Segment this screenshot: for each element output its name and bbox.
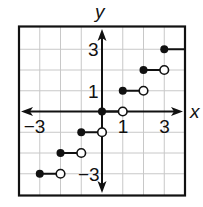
- open-point-icon: [118, 107, 127, 116]
- open-point-icon: [139, 86, 148, 95]
- open-point-icon: [98, 128, 107, 137]
- closed-point-icon: [140, 66, 148, 74]
- closed-point-icon: [98, 108, 106, 116]
- x-tick-label: 1: [118, 116, 129, 137]
- y-axis-label: y: [93, 1, 106, 22]
- closed-point-icon: [160, 45, 168, 53]
- open-point-icon: [160, 66, 169, 75]
- x-axis-label: x: [189, 101, 201, 122]
- step-function-graph: −31331−3 x y: [0, 0, 203, 207]
- open-point-icon: [77, 149, 86, 158]
- closed-point-icon: [77, 128, 85, 136]
- y-tick-label: −3: [78, 164, 100, 185]
- y-tick-label: 3: [88, 39, 99, 60]
- y-tick-label: 1: [88, 81, 99, 102]
- x-tick-label: −3: [24, 116, 46, 137]
- open-point-icon: [56, 169, 65, 178]
- closed-point-icon: [36, 170, 44, 178]
- closed-point-icon: [57, 149, 65, 157]
- x-tick-label: 3: [159, 116, 170, 137]
- closed-point-icon: [119, 87, 127, 95]
